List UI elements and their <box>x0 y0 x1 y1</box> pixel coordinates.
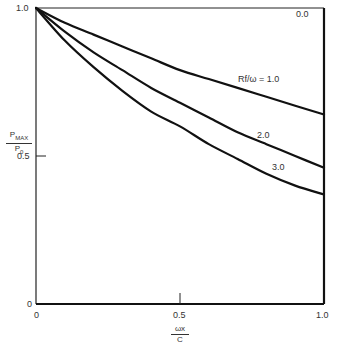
x-tick-label-0: 0 <box>34 310 39 320</box>
curve-rf-1-0 <box>36 8 324 115</box>
y-tick-label-0: 0 <box>27 299 32 309</box>
x-tick-label-1: 1.0 <box>316 310 329 320</box>
curve-label-3: 3.0 <box>272 162 285 172</box>
y-axis-label: PMAX P0 <box>6 130 32 156</box>
curve-label-2: 2.0 <box>257 130 270 140</box>
curve-2-0 <box>36 8 324 168</box>
plot-frame <box>36 8 324 304</box>
x-axis-label: ωx C <box>171 324 189 345</box>
curve-label-0: 0.0 <box>296 9 309 19</box>
x-tick-label-0-5: 0.5 <box>173 310 186 320</box>
curve-label-1: Rf/ω = 1.0 <box>238 74 279 84</box>
chart-plot <box>0 0 340 350</box>
y-tick-label-1: 1.0 <box>16 3 29 13</box>
